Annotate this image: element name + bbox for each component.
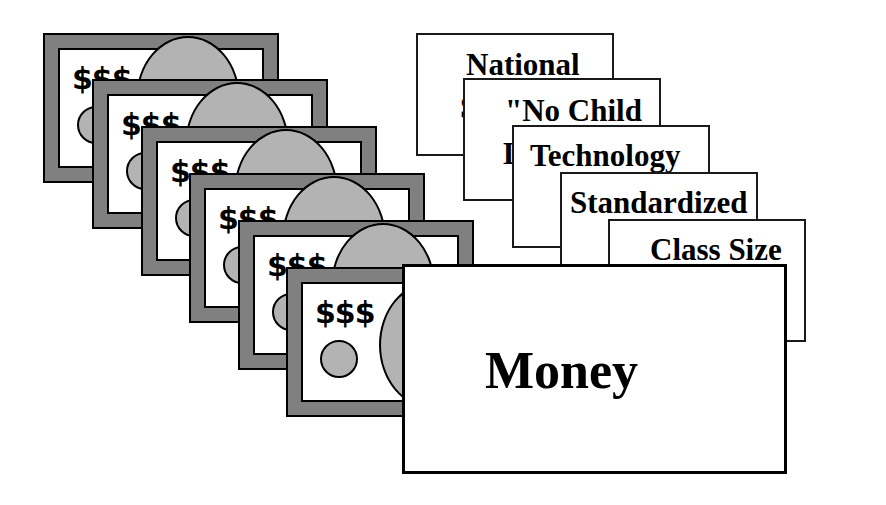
issue-card-money[interactable]: Money xyxy=(402,264,787,474)
issue-card-label: Technology xyxy=(530,138,680,174)
figure-canvas: $$$ $$$ $$$ $$$ xyxy=(0,0,886,505)
issue-card-label: Money xyxy=(485,341,638,400)
issue-card-label: "No Child xyxy=(505,93,642,129)
bill-seal-circle xyxy=(320,340,358,378)
issue-card-label: Class Size xyxy=(650,232,782,268)
issue-card-label: Standardized xyxy=(570,185,747,221)
bill-dollar-label: $$$ xyxy=(315,298,375,328)
